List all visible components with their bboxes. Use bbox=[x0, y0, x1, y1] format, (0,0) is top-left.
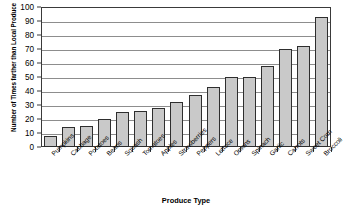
y-axis-tick-label: 70 bbox=[25, 45, 34, 54]
bar-slot bbox=[240, 7, 258, 147]
y-axis-tick-label: 90 bbox=[25, 17, 34, 26]
x-axis-tick-labels: PumpkinsCabbagePotatoesBeansSquashTomato… bbox=[41, 152, 331, 192]
y-axis-tick-label: 100 bbox=[20, 3, 34, 12]
y-axis-tick-label: 50 bbox=[25, 73, 34, 82]
bar-slot bbox=[59, 7, 77, 147]
bar bbox=[315, 17, 328, 147]
bar bbox=[261, 66, 274, 147]
y-axis-tick-label: 20 bbox=[25, 115, 34, 124]
bar bbox=[279, 49, 292, 147]
bar-slot bbox=[168, 7, 186, 147]
x-axis-title: Produce Type bbox=[41, 196, 331, 205]
bar-slot bbox=[77, 7, 95, 147]
y-axis-tick-label: 60 bbox=[25, 59, 34, 68]
bar-slot bbox=[132, 7, 150, 147]
bar-slot bbox=[259, 7, 277, 147]
y-axis-tick-label: 10 bbox=[25, 129, 34, 138]
y-axis-tick-labels: 0102030405060708090100 bbox=[0, 7, 41, 147]
bar-slot bbox=[204, 7, 222, 147]
bar-slot bbox=[114, 7, 132, 147]
bar bbox=[297, 46, 310, 147]
bar-slot bbox=[150, 7, 168, 147]
bar-slot bbox=[295, 7, 313, 147]
bar-slot bbox=[95, 7, 113, 147]
y-axis-tick-label: 80 bbox=[25, 31, 34, 40]
bar-slot bbox=[41, 7, 59, 147]
bars-container bbox=[41, 7, 331, 147]
bar bbox=[225, 77, 238, 147]
bar bbox=[243, 77, 256, 147]
bar-slot bbox=[277, 7, 295, 147]
bar-slot bbox=[313, 7, 331, 147]
y-axis-tick-label: 30 bbox=[25, 101, 34, 110]
bar-slot bbox=[222, 7, 240, 147]
y-axis-tick-label: 40 bbox=[25, 87, 34, 96]
bar bbox=[44, 136, 57, 147]
y-axis-tick-label: 0 bbox=[29, 143, 34, 152]
